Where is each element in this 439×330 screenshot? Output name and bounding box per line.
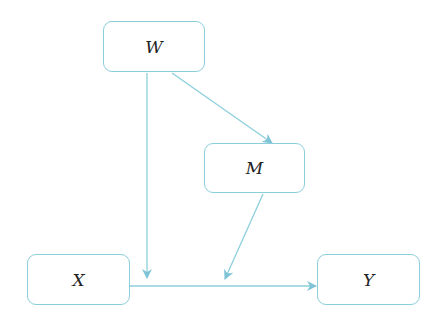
node-m-label: M — [246, 158, 263, 178]
node-x: X — [27, 254, 130, 305]
node-w-label: W — [145, 37, 162, 57]
node-y: Y — [317, 254, 420, 305]
node-x-label: X — [72, 270, 84, 290]
node-m: M — [204, 143, 305, 193]
edge-m-to-path — [225, 194, 263, 279]
node-w: W — [103, 21, 205, 72]
node-y-label: Y — [363, 270, 374, 290]
edge-w-to-m — [172, 73, 272, 143]
